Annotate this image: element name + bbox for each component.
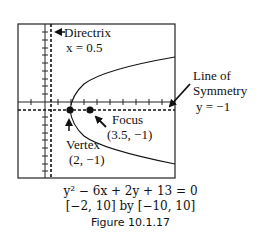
symmetry-label-line2: Symmetry <box>193 84 247 98</box>
directrix-value: x = 0.5 <box>66 41 103 55</box>
vertex-value: (2, −1) <box>69 153 105 167</box>
directrix-label: Directrix <box>64 26 111 40</box>
vertex-point <box>66 106 73 113</box>
equation-caption: y² − 6x + 2y + 13 = 0 <box>0 184 261 198</box>
vertex-label: Vertex <box>66 138 100 152</box>
focus-label: Focus <box>112 113 143 127</box>
focus-arrow-icon <box>96 117 106 127</box>
focus-value: (3.5, −1) <box>107 128 152 142</box>
symmetry-arrow-icon <box>170 84 190 106</box>
window-caption: [−2, 10] by [−10, 10] <box>0 199 261 213</box>
symmetry-value: y = −1 <box>196 100 230 114</box>
parabola-figure: Directrix x = 0.5 Line of Symmetry y = −… <box>0 0 261 249</box>
figure-number: Figure 10.1.17 <box>0 216 261 229</box>
focus-point <box>86 106 93 113</box>
symmetry-label-line1: Line of <box>193 69 231 83</box>
